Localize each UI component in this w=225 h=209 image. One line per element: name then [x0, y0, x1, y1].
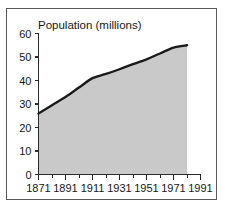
y-axis-tick-label: 40	[19, 75, 31, 87]
x-axis-tick-label: 1991	[188, 182, 212, 194]
y-axis-tick-label: 50	[19, 51, 31, 63]
x-axis-tick-label: 1911	[81, 182, 105, 194]
x-axis-tick-label: 1931	[107, 182, 131, 194]
x-axis-tick-labels: 1871189119111931195119711991	[26, 182, 212, 194]
x-axis-tick-label: 1891	[53, 182, 77, 194]
x-axis-tick-label: 1951	[134, 182, 158, 194]
population-area-chart: 0102030405060 18711891191119311951197119…	[0, 0, 225, 209]
chart-figure: 0102030405060 18711891191119311951197119…	[0, 0, 225, 209]
x-axis-tick-label: 1971	[161, 182, 185, 194]
y-axis-tick-labels: 0102030405060	[19, 28, 31, 181]
y-axis-tick-label: 60	[19, 28, 31, 40]
y-axis-tick-label: 30	[19, 98, 31, 110]
y-axis-tick-label: 20	[19, 122, 31, 134]
y-axis-tick-label: 10	[19, 145, 31, 157]
y-axis-tick-label: 0	[25, 169, 31, 181]
chart-title: Population (millions)	[38, 19, 142, 31]
x-axis-ticks	[39, 175, 201, 180]
y-axis-ticks	[35, 34, 39, 175]
area-fill-region	[39, 45, 188, 174]
x-axis-tick-label: 1871	[26, 182, 50, 194]
